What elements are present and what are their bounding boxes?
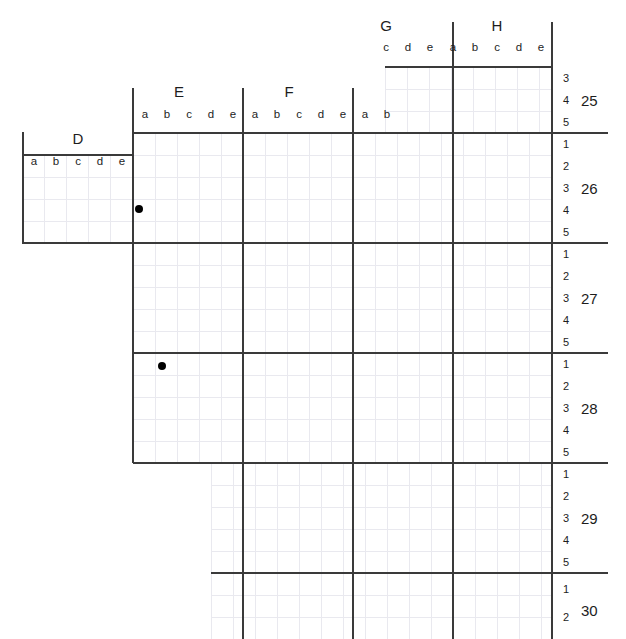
row-sub-label-27-1: 1	[563, 249, 569, 260]
column-sub-label-g-c: c	[375, 42, 397, 54]
column-group-label-h: H	[489, 18, 505, 33]
major-rule-f-g	[352, 88, 354, 639]
grid-region-main	[133, 133, 552, 463]
row-sub-label-26-5: 5	[563, 227, 569, 238]
column-sub-label-g-d: d	[397, 42, 419, 54]
row-sub-label-29-4: 4	[563, 535, 569, 546]
row-group-label-27: 27	[581, 291, 598, 306]
column-sub-label-h-c: c	[486, 42, 508, 54]
row-sub-label-25-3: 3	[563, 73, 569, 84]
row-sub-label-29-3: 3	[563, 513, 569, 524]
grid-region-bottom	[211, 463, 552, 639]
row-group-label-30: 30	[581, 603, 598, 618]
major-rule-e-f	[242, 88, 244, 639]
row-sub-label-25-5: 5	[563, 117, 569, 128]
row-sub-label-28-5: 5	[563, 447, 569, 458]
column-sub-label-e-c: c	[178, 109, 200, 121]
grid-region-top-gh	[385, 67, 552, 133]
column-group-label-g: G	[378, 18, 394, 33]
column-sub-label-f-a: a	[244, 109, 266, 121]
row-sub-label-27-3: 3	[563, 293, 569, 304]
row-sub-label-28-1: 1	[563, 359, 569, 370]
column-sub-label-h-b: b	[464, 42, 486, 54]
column-sub-label-d-e: e	[111, 156, 133, 168]
row-sub-label-29-2: 2	[563, 491, 569, 502]
major-rule-28-29	[133, 462, 608, 464]
grid-region-left-d	[22, 155, 133, 243]
row-sub-label-27-2: 2	[563, 271, 569, 282]
row-sub-label-26-4: 4	[563, 205, 569, 216]
row-group-label-28: 28	[581, 401, 598, 416]
row-group-label-25: 25	[581, 93, 598, 108]
column-sub-label-h-e: e	[530, 42, 552, 54]
row-sub-label-27-4: 4	[563, 315, 569, 326]
row-sub-label-25-4: 4	[563, 95, 569, 106]
major-rule-25-26	[133, 132, 608, 134]
column-sub-label-e-d: d	[200, 109, 222, 121]
column-sub-label-f-c: c	[288, 109, 310, 121]
column-group-label-f: F	[281, 84, 297, 99]
column-sub-label-f-b: b	[266, 109, 288, 121]
column-sub-label-d-a: a	[23, 156, 45, 168]
major-rule-26-27	[22, 242, 608, 244]
point-marker-e-b-28-1[interactable]	[158, 362, 166, 370]
row-group-label-29: 29	[581, 511, 598, 526]
row-sub-label-28-4: 4	[563, 425, 569, 436]
column-sub-label-f-d: d	[310, 109, 332, 121]
row-sub-label-30-1: 1	[563, 584, 569, 595]
column-sub-label-e-a: a	[134, 109, 156, 121]
column-group-label-d: D	[70, 131, 86, 146]
column-sub-label-d-c: c	[67, 156, 89, 168]
major-rule-29-30	[211, 572, 608, 574]
map-grid-canvas: G H c d e a b c d e E F a b c d e a b c …	[0, 0, 626, 639]
major-rule-27-28	[133, 352, 608, 354]
point-marker-e-a-26-4[interactable]	[135, 205, 143, 213]
column-sub-label-d-d: d	[89, 156, 111, 168]
row-sub-label-28-3: 3	[563, 403, 569, 414]
row-group-label-26: 26	[581, 181, 598, 196]
column-sub-label-h-a: a	[442, 42, 464, 54]
column-group-label-e: E	[171, 84, 187, 99]
major-rule-h-right	[551, 22, 553, 639]
column-sub-label-d-b: b	[45, 156, 67, 168]
major-rule-g-h	[452, 22, 454, 639]
row-sub-label-26-1: 1	[563, 139, 569, 150]
column-sub-label-g-b: b	[376, 109, 398, 121]
row-sub-label-26-3: 3	[563, 183, 569, 194]
row-sub-label-30-2: 2	[563, 612, 569, 623]
column-sub-label-h-d: d	[508, 42, 530, 54]
column-sub-label-e-e: e	[222, 109, 244, 121]
row-sub-label-29-1: 1	[563, 469, 569, 480]
column-sub-label-g-a: a	[354, 109, 376, 121]
column-sub-label-g-e: e	[419, 42, 441, 54]
major-rule-d-e	[132, 88, 134, 463]
row-sub-label-28-2: 2	[563, 381, 569, 392]
column-sub-label-e-b: b	[156, 109, 178, 121]
row-sub-label-29-5: 5	[563, 557, 569, 568]
row-sub-label-27-5: 5	[563, 337, 569, 348]
column-sub-label-f-e: e	[332, 109, 354, 121]
major-rule-d-left	[22, 132, 24, 243]
major-rule-top-25	[385, 66, 552, 68]
row-sub-label-26-2: 2	[563, 161, 569, 172]
